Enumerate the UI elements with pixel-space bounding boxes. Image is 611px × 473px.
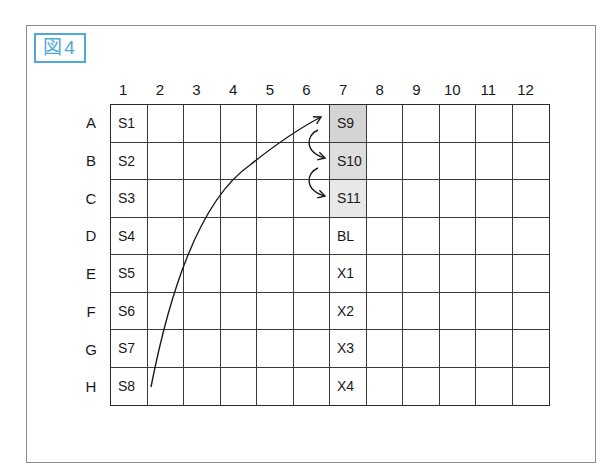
row-header-a: A <box>80 104 102 142</box>
well-d8 <box>367 218 404 256</box>
row-header-e: E <box>80 255 102 293</box>
well-a8 <box>367 105 404 143</box>
well-d7: BL <box>330 218 367 256</box>
well-b3 <box>184 143 221 181</box>
well-a6 <box>294 105 331 143</box>
well-b6 <box>294 143 331 181</box>
column-header-11: 11 <box>477 80 514 100</box>
column-header-12: 12 <box>513 80 550 100</box>
well-f10 <box>440 293 477 331</box>
column-header-5: 5 <box>257 80 294 100</box>
column-header-3: 3 <box>183 80 220 100</box>
well-b7: S10 <box>330 143 367 181</box>
well-d1: S4 <box>111 218 148 256</box>
well-g12 <box>513 330 550 368</box>
well-a4 <box>221 105 258 143</box>
well-b10 <box>440 143 477 181</box>
well-g2 <box>148 330 185 368</box>
well-d4 <box>221 218 258 256</box>
well-b8 <box>367 143 404 181</box>
well-h12 <box>513 368 550 406</box>
well-h1: S8 <box>111 368 148 406</box>
column-header-4: 4 <box>220 80 257 100</box>
well-g4 <box>221 330 258 368</box>
well-c8 <box>367 180 404 218</box>
well-c9 <box>403 180 440 218</box>
well-h7: X4 <box>330 368 367 406</box>
well-b5 <box>257 143 294 181</box>
well-c11 <box>476 180 513 218</box>
well-g10 <box>440 330 477 368</box>
column-header-2: 2 <box>147 80 184 100</box>
well-a2 <box>148 105 185 143</box>
row-header-f: F <box>80 293 102 331</box>
well-d9 <box>403 218 440 256</box>
well-g11 <box>476 330 513 368</box>
well-e9 <box>403 255 440 293</box>
well-g9 <box>403 330 440 368</box>
well-d2 <box>148 218 185 256</box>
row-header-d: D <box>80 217 102 255</box>
well-f8 <box>367 293 404 331</box>
well-g6 <box>294 330 331 368</box>
well-f2 <box>148 293 185 331</box>
column-header-1: 1 <box>110 80 147 100</box>
row-header-h: H <box>80 368 102 406</box>
well-e8 <box>367 255 404 293</box>
well-f6 <box>294 293 331 331</box>
well-g5 <box>257 330 294 368</box>
well-c6 <box>294 180 331 218</box>
column-header-7: 7 <box>330 80 367 100</box>
well-f7: X2 <box>330 293 367 331</box>
microplate-grid: S1S9S2S10S3S11S4BLS5X1S6X2S7X3S8X4 <box>110 104 550 406</box>
well-c12 <box>513 180 550 218</box>
well-a5 <box>257 105 294 143</box>
well-e2 <box>148 255 185 293</box>
well-a9 <box>403 105 440 143</box>
well-h11 <box>476 368 513 406</box>
well-h4 <box>221 368 258 406</box>
column-header-9: 9 <box>403 80 440 100</box>
well-e7: X1 <box>330 255 367 293</box>
well-d10 <box>440 218 477 256</box>
well-c4 <box>221 180 258 218</box>
row-header-b: B <box>80 142 102 180</box>
well-d11 <box>476 218 513 256</box>
well-a12 <box>513 105 550 143</box>
column-header-10: 10 <box>440 80 477 100</box>
well-f4 <box>221 293 258 331</box>
well-c3 <box>184 180 221 218</box>
well-b12 <box>513 143 550 181</box>
well-a1: S1 <box>111 105 148 143</box>
figure-label: 図4 <box>34 33 86 63</box>
well-f5 <box>257 293 294 331</box>
row-header-g: G <box>80 331 102 369</box>
well-g3 <box>184 330 221 368</box>
well-b11 <box>476 143 513 181</box>
well-e6 <box>294 255 331 293</box>
column-header-6: 6 <box>293 80 330 100</box>
column-headers: 1 2 3 4 5 6 7 8 9 10 11 12 <box>110 80 550 100</box>
well-d6 <box>294 218 331 256</box>
well-c2 <box>148 180 185 218</box>
well-f12 <box>513 293 550 331</box>
well-h3 <box>184 368 221 406</box>
well-h5 <box>257 368 294 406</box>
well-b4 <box>221 143 258 181</box>
well-h2 <box>148 368 185 406</box>
well-e4 <box>221 255 258 293</box>
well-e12 <box>513 255 550 293</box>
column-header-8: 8 <box>367 80 404 100</box>
well-f11 <box>476 293 513 331</box>
well-a3 <box>184 105 221 143</box>
well-a11 <box>476 105 513 143</box>
well-h6 <box>294 368 331 406</box>
well-g7: X3 <box>330 330 367 368</box>
well-b2 <box>148 143 185 181</box>
well-c1: S3 <box>111 180 148 218</box>
well-g8 <box>367 330 404 368</box>
well-h9 <box>403 368 440 406</box>
row-headers: A B C D E F G H <box>80 104 102 406</box>
well-e3 <box>184 255 221 293</box>
well-c7: S11 <box>330 180 367 218</box>
